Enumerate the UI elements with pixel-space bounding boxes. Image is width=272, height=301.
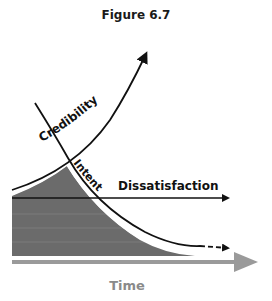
time-label: Time xyxy=(109,278,145,293)
diagram: Credibility Intent Dissatisfaction Time xyxy=(0,0,272,301)
dissatisfaction-label: Dissatisfaction xyxy=(118,179,219,193)
intent-curve-dashed xyxy=(200,246,228,248)
time-axis-arrowhead xyxy=(234,252,258,272)
credibility-label: Credibility xyxy=(36,93,100,145)
